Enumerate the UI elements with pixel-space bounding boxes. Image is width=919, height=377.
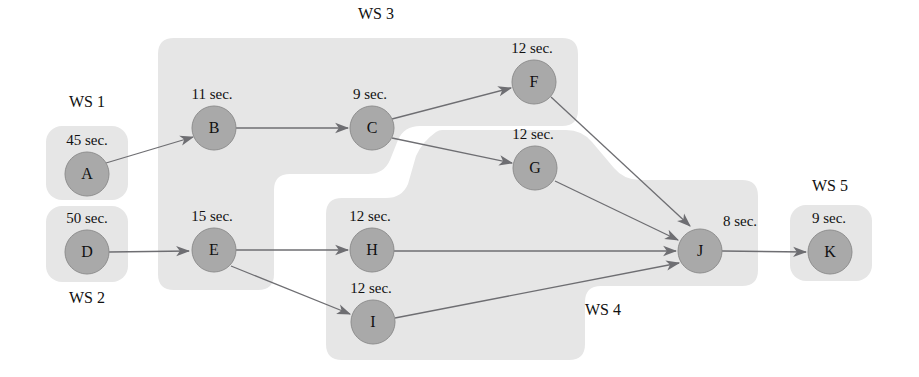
node-label-J: J (697, 242, 703, 259)
node-label-E: E (209, 241, 219, 258)
workstation-regions (46, 38, 872, 360)
node-label-H: H (366, 241, 378, 258)
node-label-K: K (824, 243, 836, 260)
node-label-C: C (367, 119, 378, 136)
node-label-D: D (81, 243, 93, 260)
precedence-network-diagram: A B C D E F G H I J K 45 sec. 11 sec. 9 … (0, 0, 919, 377)
time-label-D: 50 sec. (66, 210, 108, 226)
time-label-A: 45 sec. (66, 132, 108, 148)
ws-label-ws5: WS 5 (812, 177, 848, 194)
ws-label-ws1: WS 1 (69, 93, 105, 110)
time-label-J: 8 sec. (723, 213, 757, 229)
node-label-A: A (81, 165, 93, 182)
node-label-I: I (370, 313, 375, 330)
time-label-F: 12 sec. (511, 40, 553, 56)
node-label-G: G (529, 159, 541, 176)
ws-label-ws4: WS 4 (585, 301, 621, 318)
time-label-H: 12 sec. (349, 208, 391, 224)
node-label-B: B (209, 119, 220, 136)
time-label-I: 12 sec. (350, 280, 392, 296)
ws-label-ws3: WS 3 (358, 5, 394, 22)
time-label-C: 9 sec. (353, 86, 387, 102)
time-label-B: 11 sec. (191, 86, 232, 102)
time-label-E: 15 sec. (191, 208, 233, 224)
diagram-canvas: A B C D E F G H I J K 45 sec. 11 sec. 9 … (0, 0, 919, 377)
ws-label-ws2: WS 2 (69, 289, 105, 306)
time-label-G: 12 sec. (512, 126, 554, 142)
node-label-F: F (530, 73, 539, 90)
time-label-K: 9 sec. (812, 210, 846, 226)
